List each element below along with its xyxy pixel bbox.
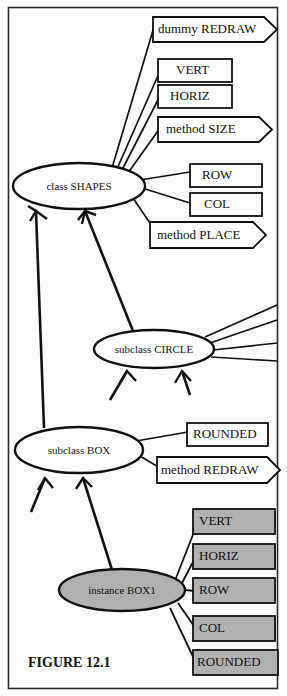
inheritance-arrow-group — [31, 211, 190, 573]
attribute-node-instance-col[interactable]: COL — [193, 616, 275, 641]
figure-container: dummy REDRAW VERT HORIZ method SIZE ROW … — [0, 0, 287, 696]
connector-circle-attr-3 — [213, 343, 277, 350]
row-label: ROW — [202, 167, 233, 182]
attribute-node-instance-horiz[interactable]: HORIZ — [193, 544, 275, 569]
attribute-node-box-rounded[interactable]: ROUNDED — [187, 423, 268, 446]
instance-rounded-label: ROUNDED — [197, 654, 261, 669]
node-subclass-circle[interactable]: subclass CIRCLE — [94, 330, 214, 368]
instance-horiz-label: HORIZ — [199, 548, 239, 563]
arrowhead-stub-into-circle-left — [120, 371, 136, 383]
attribute-node-instance-rounded[interactable]: ROUNDED — [193, 650, 278, 675]
connector-shapes-vert — [117, 71, 160, 169]
attribute-node-method-place[interactable]: method PLACE — [150, 222, 266, 248]
connector-box-rounded — [136, 432, 188, 441]
subclass-box-label: subclass BOX — [48, 444, 111, 456]
arrow-shaft-circle-to-shapes — [85, 211, 133, 331]
attribute-node-instance-row[interactable]: ROW — [193, 578, 275, 603]
attribute-node-method-redraw[interactable]: method REDRAW — [157, 457, 280, 483]
col-label: COL — [204, 196, 230, 211]
instance-vert-label: VERT — [199, 513, 232, 528]
attribute-node-row[interactable]: ROW — [190, 164, 262, 187]
arrow-shaft-box-to-shapes — [36, 212, 44, 428]
box-rounded-label: ROUNDED — [193, 426, 257, 441]
node-instance-box1[interactable]: instance BOX1 — [59, 569, 185, 611]
connector-shapes-horiz — [122, 96, 160, 170]
attribute-node-dummy-redraw[interactable]: dummy REDRAW — [153, 17, 277, 42]
connector-circle-attr-2 — [210, 320, 277, 343]
figure-diagram: dummy REDRAW VERT HORIZ method SIZE ROW … — [0, 0, 287, 696]
node-class-shapes[interactable]: class SHAPES — [13, 163, 145, 209]
method-size-label: method SIZE — [166, 121, 236, 136]
connector-circle-attr-4 — [211, 357, 277, 361]
attribute-node-instance-vert[interactable]: VERT — [193, 509, 275, 534]
attribute-node-method-size[interactable]: method SIZE — [158, 117, 272, 142]
arrowhead-stub-into-box-left — [38, 478, 53, 490]
method-place-label: method PLACE — [157, 227, 240, 242]
subclass-circle-label: subclass CIRCLE — [115, 343, 194, 355]
figure-caption: FIGURE 12.1 — [28, 655, 110, 670]
class-shapes-label: class SHAPES — [46, 180, 111, 192]
instance-col-label: COL — [199, 620, 225, 635]
instance-row-label: ROW — [199, 582, 230, 597]
dummy-redraw-label: dummy REDRAW — [158, 21, 257, 36]
arrowhead-box-to-shapes-barb — [36, 211, 47, 219]
method-redraw-label: method REDRAW — [161, 462, 259, 477]
attribute-node-vert[interactable]: VERT — [158, 59, 232, 82]
vert-label: VERT — [176, 62, 209, 77]
node-subclass-box[interactable]: subclass BOX — [15, 427, 143, 473]
attribute-node-horiz[interactable]: HORIZ — [158, 85, 232, 108]
attribute-node-col[interactable]: COL — [190, 193, 262, 216]
instance-box1-label: instance BOX1 — [88, 584, 156, 596]
arrowhead-box-to-shapes — [28, 206, 36, 221]
circle-attribute-connectors — [205, 305, 277, 361]
arrow-shaft-box1-to-box — [83, 478, 113, 573]
horiz-label: HORIZ — [170, 88, 210, 103]
connector-shapes-row — [140, 172, 190, 180]
connector-shapes-col — [142, 188, 190, 203]
